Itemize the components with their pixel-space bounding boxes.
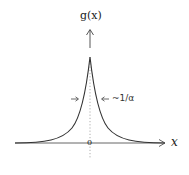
origin-label: 0 — [87, 138, 92, 147]
width-annotation: ~1/α — [112, 93, 134, 103]
diagram-canvas — [0, 0, 189, 175]
y-axis-label: g(x) — [80, 9, 102, 22]
x-axis-label: x — [171, 135, 178, 149]
